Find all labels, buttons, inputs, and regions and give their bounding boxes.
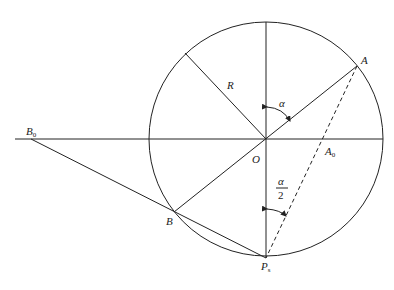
line-B0-Ps	[31, 139, 266, 258]
half-alpha-arc-icon	[267, 209, 286, 216]
label-half-alpha-denominator: 2	[278, 189, 284, 201]
alpha-arc-icon	[267, 107, 290, 121]
dashed-line-A-Ps	[266, 66, 357, 258]
label-A: A	[360, 54, 368, 66]
label-half-alpha-numerator: α	[278, 175, 284, 187]
label-B: B	[166, 215, 173, 227]
label-alpha: α	[279, 97, 285, 109]
radius-line	[185, 53, 266, 139]
label-R: R	[226, 79, 234, 91]
label-B0: B0	[26, 125, 37, 139]
label-Ps: Ps	[260, 260, 271, 274]
label-O: O	[252, 153, 260, 165]
label-A0: A0	[324, 145, 336, 159]
geometry-diagram: A R α B0 O A0 α 2 B Ps	[0, 0, 394, 290]
